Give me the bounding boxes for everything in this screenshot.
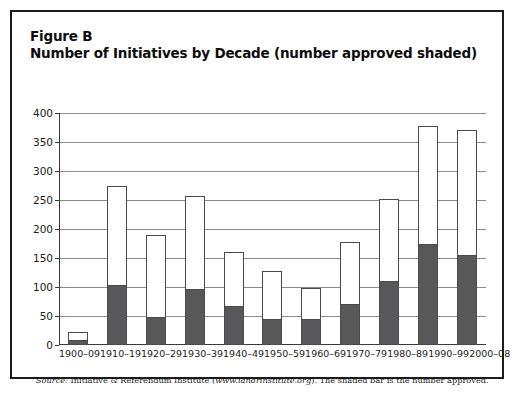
- bar-slot: [98, 113, 137, 345]
- y-axis-tick-label: 100: [33, 281, 53, 293]
- x-axis-labels: 1900–091910–191920–291930–391940–491950–…: [59, 348, 486, 362]
- bar-slot: [175, 113, 214, 345]
- y-axis-tick-label: 300: [33, 165, 53, 177]
- bar-slot: [447, 113, 486, 345]
- bar-total[interactable]: [262, 271, 282, 345]
- y-axis-tick-label: 400: [33, 107, 53, 119]
- x-axis-tick-label: 1990–99: [428, 348, 469, 362]
- x-axis-tick-label: 1980–89: [387, 348, 428, 362]
- source-body: Initiative & Referendum Institute (: [68, 375, 215, 385]
- bar-slot: [137, 113, 176, 345]
- figure-label: Figure B: [30, 28, 480, 45]
- source-prefix: Source:: [36, 375, 68, 385]
- bar-slot: [331, 113, 370, 345]
- x-axis-tick-label: 1910–19: [100, 348, 141, 362]
- bar-slot: [59, 113, 98, 345]
- bar-approved[interactable]: [418, 244, 438, 346]
- bar-total[interactable]: [146, 235, 166, 345]
- figure-frame: Figure B Number of Initiatives by Decade…: [10, 10, 504, 379]
- source-note: Source: Initiative & Referendum Institut…: [36, 375, 486, 385]
- y-axis-tick-label: 200: [33, 223, 53, 235]
- x-axis-tick-label: 1970–79: [346, 348, 387, 362]
- bar-total[interactable]: [418, 126, 438, 345]
- x-axis-tick-label: 1900–09: [59, 348, 100, 362]
- x-axis-tick-label: 1940–49: [223, 348, 264, 362]
- bar-slot: [253, 113, 292, 345]
- bar-total[interactable]: [68, 332, 88, 345]
- x-axis-tick-label: 1950–59: [264, 348, 305, 362]
- bar-approved[interactable]: [262, 319, 282, 345]
- bar-approved[interactable]: [457, 255, 477, 345]
- bar-total[interactable]: [379, 199, 399, 345]
- y-axis-tick-label: 50: [40, 310, 53, 322]
- bar-approved[interactable]: [146, 317, 166, 345]
- chart-plot-area: 050100150200250300350400: [59, 113, 486, 345]
- bar-approved[interactable]: [185, 289, 205, 345]
- y-axis-tick-label: 0: [46, 339, 53, 351]
- y-axis-tick-label: 150: [33, 252, 53, 264]
- bar-approved[interactable]: [68, 340, 88, 345]
- bar-approved[interactable]: [224, 306, 244, 345]
- bar-approved[interactable]: [340, 304, 360, 345]
- x-axis-tick-label: 1960–69: [305, 348, 346, 362]
- bar-slot: [408, 113, 447, 345]
- bar-total[interactable]: [340, 242, 360, 345]
- source-url: www.iandrinstitute.org: [215, 375, 311, 385]
- bar-total[interactable]: [107, 186, 127, 345]
- y-axis-tick-label: 350: [33, 136, 53, 148]
- bar-total[interactable]: [185, 196, 205, 345]
- bar-slot: [292, 113, 331, 345]
- figure-title-block: Figure B Number of Initiatives by Decade…: [30, 28, 480, 62]
- bar-slot: [214, 113, 253, 345]
- y-axis-tick-mark: [55, 345, 59, 346]
- x-axis-tick-label: 1920–29: [141, 348, 182, 362]
- bar-series-layer: [59, 113, 486, 345]
- page-title: Number of Initiatives by Decade (number …: [30, 45, 480, 62]
- bar-slot: [370, 113, 409, 345]
- bar-approved[interactable]: [107, 285, 127, 345]
- y-axis-tick-label: 250: [33, 194, 53, 206]
- bar-approved[interactable]: [301, 319, 321, 345]
- bar-total[interactable]: [457, 130, 477, 345]
- bar-total[interactable]: [224, 252, 244, 345]
- bar-approved[interactable]: [379, 281, 399, 345]
- x-axis-tick-label: 2000–08: [469, 348, 510, 362]
- bar-total[interactable]: [301, 288, 321, 345]
- source-suffix: ). The shaded bar is the number approved…: [311, 375, 488, 385]
- x-axis-tick-label: 1930–39: [182, 348, 223, 362]
